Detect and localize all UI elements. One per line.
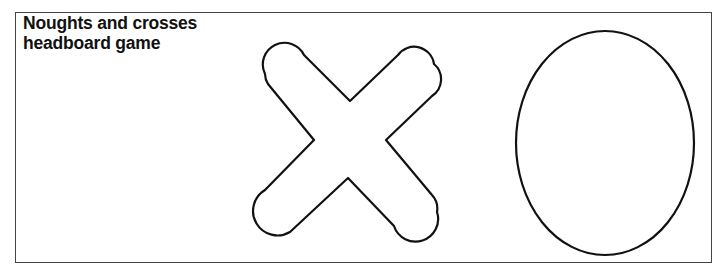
nought-shape-icon [516, 31, 694, 255]
shapes-canvas [0, 0, 723, 276]
cross-shape-icon [253, 43, 441, 242]
